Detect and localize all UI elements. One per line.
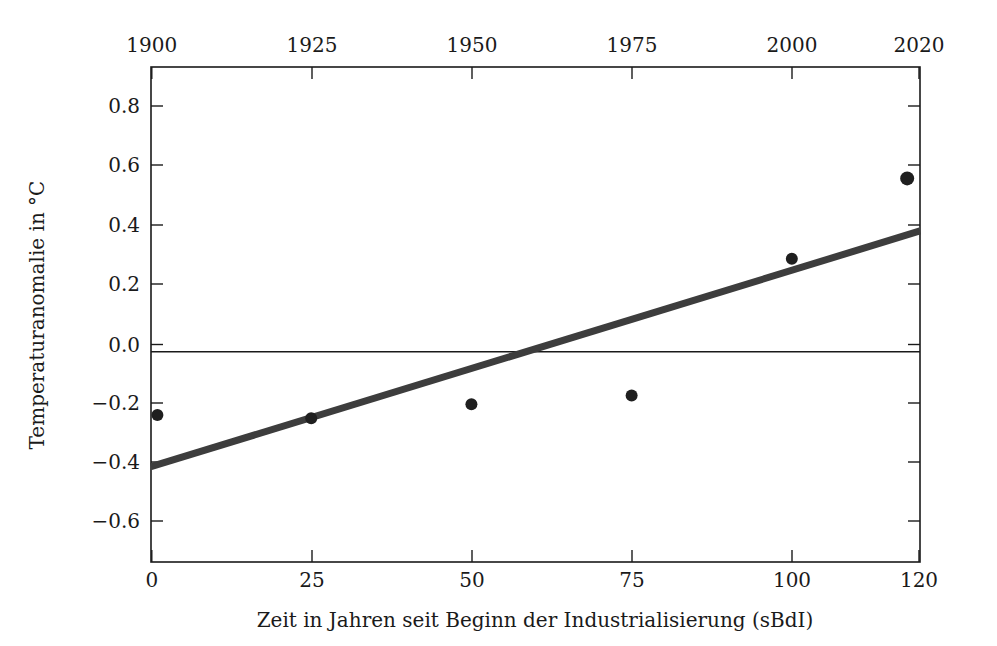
bottom-tick-label-75: 75 xyxy=(619,568,644,592)
data-point xyxy=(465,398,477,410)
top-tick-label-1975: 1975 xyxy=(607,33,658,57)
y-tick-label-0.0: 0.0 xyxy=(108,333,140,357)
data-points-group xyxy=(151,171,914,424)
y-tick-label-neg0.2: −0.2 xyxy=(91,391,140,415)
y-tick-label-0.8: 0.8 xyxy=(108,94,140,118)
y-tick-label-neg0.4: −0.4 xyxy=(91,450,140,474)
bottom-tick-label-0: 0 xyxy=(145,568,158,592)
bottom-axis-ticks xyxy=(152,550,919,562)
bottom-tick-label-25: 25 xyxy=(299,568,324,592)
temperature-anomaly-scatter-chart: 1900 1925 1950 1975 2000 2020 0 25 50 75… xyxy=(0,0,997,646)
top-tick-label-2000: 2000 xyxy=(767,33,818,57)
top-axis-tick-labels: 1900 1925 1950 1975 2000 2020 xyxy=(126,33,944,57)
bottom-axis-tick-labels: 0 25 50 75 100 120 xyxy=(145,568,938,592)
bottom-tick-label-50: 50 xyxy=(459,568,484,592)
y-tick-label-0.6: 0.6 xyxy=(108,153,140,177)
right-axis-ticks xyxy=(908,106,920,521)
top-axis-ticks xyxy=(152,67,919,79)
bottom-tick-label-120: 120 xyxy=(900,568,938,592)
top-tick-label-1925: 1925 xyxy=(287,33,338,57)
x-axis-title: Zeit in Jahren seit Beginn der Industria… xyxy=(257,608,814,632)
data-point xyxy=(786,253,798,265)
top-tick-label-1950: 1950 xyxy=(447,33,498,57)
top-tick-label-2020: 2020 xyxy=(894,33,945,57)
y-tick-label-0.4: 0.4 xyxy=(108,213,140,237)
data-point xyxy=(900,171,914,185)
chart-figure: 1900 1925 1950 1975 2000 2020 0 25 50 75… xyxy=(0,0,997,646)
data-point xyxy=(626,390,638,402)
data-point xyxy=(305,412,317,424)
top-tick-label-1900: 1900 xyxy=(126,33,177,57)
left-axis-ticks xyxy=(151,106,163,521)
y-tick-label-0.2: 0.2 xyxy=(108,272,140,296)
regression-trend-line xyxy=(151,231,920,467)
y-axis-tick-labels: 0.8 0.6 0.4 0.2 0.0 −0.2 −0.4 −0.6 xyxy=(91,94,140,533)
y-tick-label-neg0.6: −0.6 xyxy=(91,509,140,533)
bottom-tick-label-100: 100 xyxy=(773,568,811,592)
data-point xyxy=(151,409,163,421)
plot-frame xyxy=(151,67,920,562)
y-axis-title: Temperaturanomalie in °C xyxy=(25,181,49,450)
